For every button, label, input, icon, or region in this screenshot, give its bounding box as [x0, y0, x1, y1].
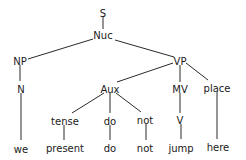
tree-nodes: SNucNPVPNAuxMVplacetensedonotVwepresentd… — [13, 8, 230, 155]
node-VP: VP — [174, 56, 187, 67]
node-present: present — [46, 143, 84, 154]
node-Aux: Aux — [100, 84, 119, 95]
edge-Nuc-NP — [28, 39, 93, 59]
edge-VP-place — [186, 63, 208, 80]
tree-edges — [20, 16, 217, 140]
syntax-tree-diagram: SNucNPVPNAuxMVplacetensedonotVwepresentd… — [0, 0, 246, 160]
node-place: place — [204, 83, 231, 94]
node-not1: not — [137, 115, 153, 126]
node-do1: do — [104, 116, 116, 127]
node-V: V — [177, 115, 184, 126]
node-MV: MV — [172, 84, 188, 95]
node-here: here — [207, 142, 230, 153]
node-tense: tense — [51, 116, 79, 127]
node-NP: NP — [13, 56, 27, 67]
node-Nuc: Nuc — [93, 30, 112, 41]
edge-Aux-not1 — [116, 93, 141, 112]
node-not2: not — [137, 143, 153, 154]
edge-Nuc-VP — [115, 40, 174, 57]
edge-VP-Aux — [117, 63, 173, 82]
node-S: S — [100, 8, 106, 19]
node-do2: do — [104, 143, 116, 154]
node-we: we — [14, 144, 28, 155]
edge-Aux-tense — [72, 93, 104, 113]
node-jump: jump — [167, 143, 193, 154]
node-N: N — [17, 84, 24, 95]
